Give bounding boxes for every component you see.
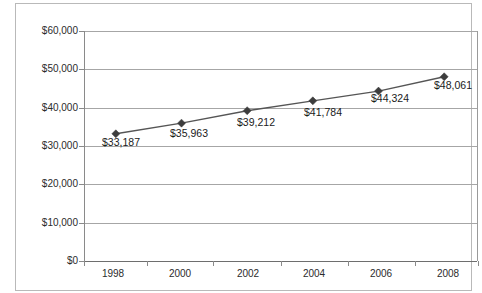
y-axis-label-50000: $50,000 [18,64,78,74]
x-axis-tick-4 [348,261,349,266]
x-axis-tick-0 [84,261,85,266]
y-axis-tick-60000 [79,31,84,32]
x-axis-tick-5 [415,261,416,266]
gridline-50000 [84,69,477,70]
gridline-60000 [84,31,477,32]
x-axis-tick-2 [213,261,214,266]
y-axis-tick-40000 [79,108,84,109]
point-label-2004: $41,784 [283,107,363,118]
y-axis-label-10000: $10,000 [18,218,78,228]
x-axis-label-2008: 2008 [418,268,478,279]
y-axis-label-20000: $20,000 [18,179,78,189]
y-axis-tick-50000 [79,69,84,70]
chart-figure: $60,000 $50,000 $40,000 $30,000 $20,000 … [0,0,482,293]
gridline-20000 [84,184,477,185]
x-axis-label-2002: 2002 [218,268,278,279]
y-axis-label-30000: $30,000 [18,141,78,151]
point-label-2000: $35,963 [149,128,229,139]
gridline-40000 [84,108,477,109]
y-axis-label-40000: $40,000 [18,103,78,113]
point-label-2002: $39,212 [216,117,296,128]
x-axis-label-2000: 2000 [150,268,210,279]
x-axis-label-2006: 2006 [351,268,411,279]
x-axis-label-2004: 2004 [284,268,344,279]
chart-frame: $60,000 $50,000 $40,000 $30,000 $20,000 … [15,3,472,291]
y-axis-label-0: $0 [18,256,78,266]
y-axis-label-60000: $60,000 [18,26,78,36]
point-label-2008: $48,061 [413,80,482,91]
gridline-10000 [84,223,477,224]
x-axis-tick-3 [281,261,282,266]
point-label-2006: $44,324 [350,93,430,104]
x-axis-tick-6 [478,261,479,266]
x-axis-tick-1 [147,261,148,266]
y-axis-tick-10000 [79,223,84,224]
x-axis-label-1998: 1998 [83,268,143,279]
y-axis-tick-20000 [79,184,84,185]
